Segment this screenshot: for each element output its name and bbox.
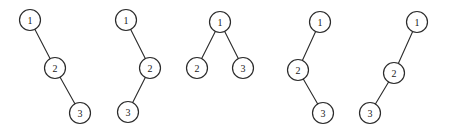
- tree-3-nodes: 123: [187, 12, 254, 79]
- tree-edge: [375, 82, 388, 104]
- tree-edge: [202, 31, 216, 58]
- node-label: 3: [241, 63, 246, 74]
- node-label: 1: [218, 17, 223, 28]
- tree-5-nodes: 123: [360, 12, 428, 124]
- node-label: 3: [126, 107, 131, 118]
- tree-node: 3: [360, 103, 381, 124]
- figure-canvas: 123123123123123: [0, 0, 449, 136]
- node-label: 1: [28, 15, 33, 26]
- node-label: 1: [124, 15, 129, 26]
- tree-edge: [303, 79, 317, 104]
- tree-node: 3: [233, 58, 254, 79]
- node-label: 3: [368, 108, 373, 119]
- tree-node: 1: [116, 10, 137, 31]
- tree-2-nodes: 123: [116, 10, 161, 123]
- node-label: 3: [321, 108, 326, 119]
- tree-node: 3: [70, 103, 91, 124]
- tree-edge: [398, 32, 412, 64]
- tree-edge: [225, 31, 239, 58]
- tree-edge: [133, 77, 146, 102]
- tree-node: 1: [310, 12, 331, 33]
- tree-1-nodes: 123: [20, 10, 91, 124]
- node-label: 1: [318, 17, 323, 28]
- tree-node: 1: [407, 12, 428, 33]
- tree-3-edges: [202, 31, 239, 58]
- node-label: 2: [53, 63, 58, 74]
- edges-layer: [35, 29, 413, 104]
- node-label: 2: [195, 63, 200, 74]
- tree-node: 2: [187, 58, 208, 79]
- tree-node: 2: [45, 58, 66, 79]
- tree-node: 3: [118, 102, 139, 123]
- tree-node: 1: [210, 12, 231, 33]
- tree-edge: [60, 77, 75, 104]
- node-label: 2: [392, 68, 397, 79]
- binary-trees-figure: 123123123123123: [0, 0, 449, 136]
- tree-node: 2: [288, 60, 309, 81]
- tree-node: 2: [140, 58, 161, 79]
- tree-node: 1: [20, 10, 41, 31]
- tree-edge: [302, 32, 315, 61]
- node-label: 2: [148, 63, 153, 74]
- node-label: 3: [78, 108, 83, 119]
- tree-edge: [35, 29, 50, 58]
- nodes-layer: 123123123123123: [20, 10, 428, 124]
- node-label: 2: [296, 65, 301, 76]
- tree-4-nodes: 123: [288, 12, 334, 124]
- node-label: 1: [415, 17, 420, 28]
- tree-node: 2: [384, 63, 405, 84]
- tree-edge: [131, 29, 146, 58]
- tree-node: 3: [313, 103, 334, 124]
